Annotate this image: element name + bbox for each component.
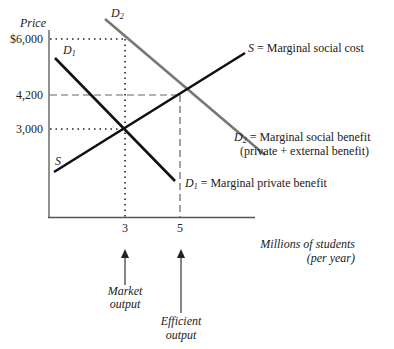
x-tick-3: 3 bbox=[115, 222, 135, 235]
s-left-label: S bbox=[55, 155, 61, 168]
s-legend-label: S = Marginal social cost bbox=[248, 42, 364, 55]
market-output-arrowhead bbox=[121, 249, 129, 258]
market-output-label-2: output bbox=[100, 298, 150, 311]
curve-d1 bbox=[55, 58, 175, 181]
y-tick-4200: 4,200 bbox=[0, 89, 43, 102]
d1-top-label: D1 bbox=[63, 44, 76, 60]
efficient-output-arrowhead bbox=[177, 249, 185, 258]
x-axis-label-line1: Millions of students bbox=[250, 238, 355, 251]
d2-top-label: D2 bbox=[111, 7, 124, 23]
x-tick-5: 5 bbox=[170, 222, 190, 235]
d1-legend-label: D1 = Marginal private benefit bbox=[185, 177, 327, 193]
y-tick-6000: $6,000 bbox=[0, 33, 43, 46]
y-tick-3000: 3,000 bbox=[0, 123, 43, 136]
efficient-output-label-1: Efficient bbox=[151, 315, 211, 328]
d2-legend-label-line2: (private + external benefit) bbox=[240, 145, 369, 158]
x-axis-label-line2: (per year) bbox=[250, 252, 355, 265]
y-axis-label: Price bbox=[20, 17, 46, 30]
efficient-output-label-2: output bbox=[151, 329, 211, 342]
